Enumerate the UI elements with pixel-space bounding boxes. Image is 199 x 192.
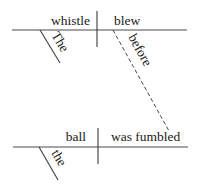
subject-ball: ball — [66, 129, 86, 144]
modifier-the: the — [48, 147, 69, 169]
sentence-diagram: whistle blew The before ball was fumbled… — [0, 0, 199, 192]
predicate-blew: blew — [114, 13, 140, 28]
subject-whistle: whistle — [51, 13, 90, 28]
subordinate-clause: ball was fumbled the — [13, 128, 188, 180]
conjunction-before: before — [125, 31, 155, 68]
predicate-was-fumbled: was fumbled — [111, 129, 181, 144]
subordinate-connector: before — [113, 30, 169, 131]
main-clause: whistle blew The — [12, 11, 187, 63]
